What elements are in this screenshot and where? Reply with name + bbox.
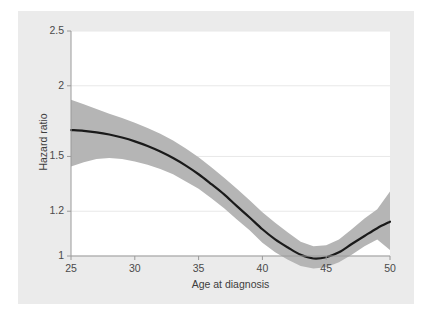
x-tick-label: 25	[56, 262, 86, 274]
y-tick-label: 1.2	[49, 204, 64, 216]
y-tick-label: 1.5	[49, 149, 64, 161]
x-tick-label: 35	[184, 262, 214, 274]
y-tick-label: 2	[58, 79, 64, 91]
x-tick-label: 30	[120, 262, 150, 274]
x-tick-label: 45	[311, 262, 341, 274]
y-tick-label: 2.5	[49, 24, 64, 36]
x-tick-label: 40	[247, 262, 277, 274]
figure-canvas: 11.21.522.5 253035404550 Hazard ratio Ag…	[0, 0, 431, 321]
x-axis-title: Age at diagnosis	[71, 278, 390, 290]
y-tick-label: 1	[58, 249, 64, 261]
y-axis-title: Hazard ratio	[37, 92, 49, 192]
x-tick-label: 50	[375, 262, 405, 274]
